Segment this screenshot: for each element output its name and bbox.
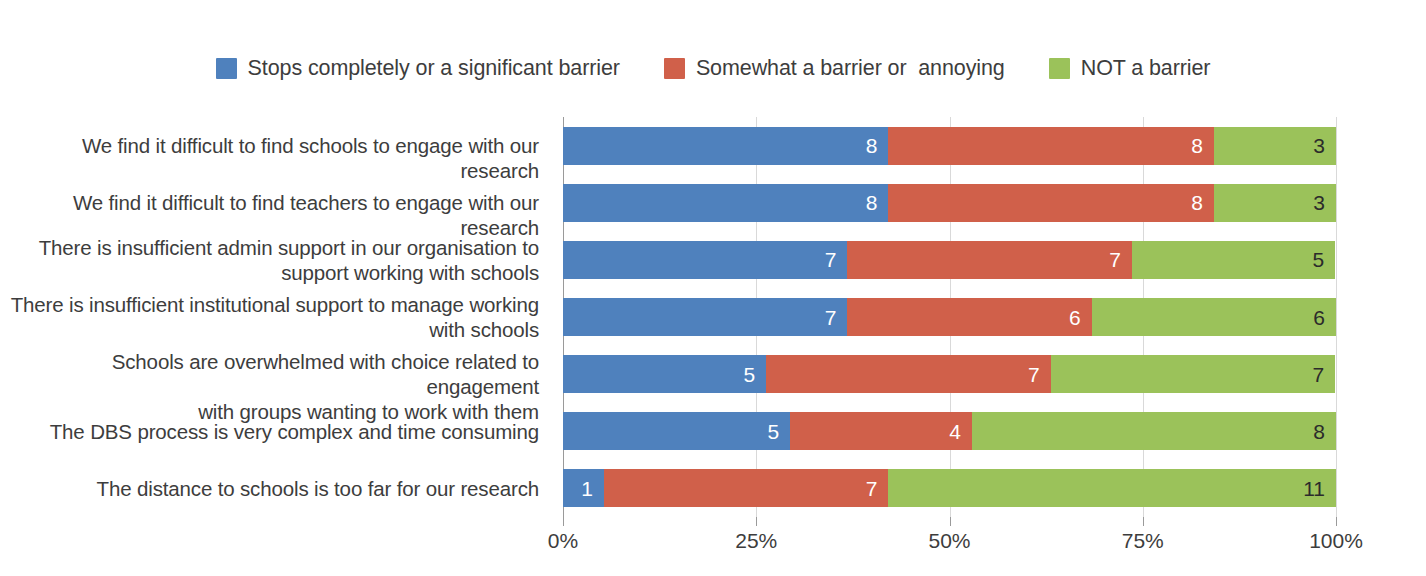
bar-segment-value: 6 [1069,307,1092,328]
plot-area: 0%25%50%75%100%8838837757665775481711 [563,117,1336,517]
bar-row[interactable]: 577 [563,355,1336,393]
legend-swatch-icon [1049,58,1070,79]
axis-tick-mark [756,517,757,526]
stacked-bar-chart: Stops completely or a significant barrie… [0,0,1426,576]
legend-label: Stops completely or a significant barrie… [248,56,620,81]
bar-segment[interactable]: 1 [563,469,604,507]
legend-swatch-icon [216,58,237,79]
category-label: We find it difficult to find teachers to… [9,190,539,240]
category-label-line: There is insufficient institutional supp… [9,292,539,317]
bar-segment[interactable]: 8 [888,127,1213,165]
bar-row[interactable]: 883 [563,127,1336,165]
bar-segment-value: 8 [1191,135,1214,156]
category-label-line: We find it difficult to find schools to … [9,133,539,183]
category-label-line: There is insufficient admin support in o… [9,235,539,260]
bar-segment-value: 5 [1313,249,1336,270]
bar-segment[interactable]: 4 [790,412,972,450]
bar-segment[interactable]: 8 [563,127,888,165]
category-label-line: We find it difficult to find teachers to… [9,190,539,240]
axis-tick-label: 0% [548,529,578,553]
axis-tick-label: 75% [1122,529,1164,553]
bar-segment[interactable]: 7 [847,241,1131,279]
category-label: The distance to schools is too far for o… [9,476,539,501]
category-label-line: with schools [9,317,539,342]
bar-row[interactable]: 548 [563,412,1336,450]
bar-segment[interactable]: 5 [1132,241,1335,279]
category-label-line: The distance to schools is too far for o… [9,476,539,501]
bar-segment-value: 4 [949,421,972,442]
bar-segment[interactable]: 7 [563,298,847,336]
category-label-line: support working with schools [9,260,539,285]
bar-segment-value: 7 [1109,249,1132,270]
bar-segment[interactable]: 7 [563,241,847,279]
bar-row[interactable]: 766 [563,298,1336,336]
bar-segment-value: 8 [1191,192,1214,213]
category-label-line: Schools are overwhelmed with choice rela… [9,349,539,399]
bar-segment-value: 6 [1313,307,1336,328]
bar-segment-value: 11 [1303,478,1336,499]
axis-tick-label: 50% [928,529,970,553]
bar-segment-value: 5 [744,364,767,385]
bar-segment[interactable]: 5 [563,355,766,393]
bar-segment[interactable]: 7 [766,355,1050,393]
bar-segment-value: 7 [825,307,848,328]
legend-item-2[interactable]: NOT a barrier [1049,56,1211,81]
plot-wrapper: We find it difficult to find schools to … [0,117,1426,517]
bar-segment[interactable]: 3 [1214,184,1336,222]
bar-segment-value: 8 [866,192,889,213]
category-label-line: The DBS process is very complex and time… [9,419,539,444]
bar-segment-value: 8 [1313,421,1336,442]
axis-tick-mark [1336,517,1337,526]
bar-segment[interactable]: 8 [563,184,888,222]
bar-row[interactable]: 775 [563,241,1336,279]
legend-label: Somewhat a barrier or annoying [696,56,1005,81]
bar-segment-value: 1 [581,478,604,499]
bar-segment-value: 7 [825,249,848,270]
gridline [1336,117,1337,517]
category-axis-labels: We find it difficult to find schools to … [0,117,551,517]
legend-label: NOT a barrier [1081,56,1211,81]
category-label: There is insufficient admin support in o… [9,235,539,285]
category-label: We find it difficult to find schools to … [9,133,539,183]
category-label: There is insufficient institutional supp… [9,292,539,342]
bar-row[interactable]: 1711 [563,469,1336,507]
bar-segment[interactable]: 5 [563,412,790,450]
axis-tick-label: 100% [1309,529,1363,553]
axis-tick-mark [563,517,564,526]
bar-segment[interactable]: 8 [972,412,1336,450]
legend-swatch-icon [664,58,685,79]
bar-segment-value: 5 [768,421,791,442]
bar-segment[interactable]: 6 [1092,298,1336,336]
bar-segment[interactable]: 6 [847,298,1091,336]
axis-tick-mark [950,517,951,526]
bar-segment-value: 3 [1313,192,1336,213]
category-label: The DBS process is very complex and time… [9,419,539,444]
axis-tick-label: 25% [735,529,777,553]
axis-tick-mark [1143,517,1144,526]
chart-legend: Stops completely or a significant barrie… [0,56,1426,81]
bar-segment-value: 7 [1313,364,1336,385]
bar-segment[interactable]: 7 [604,469,888,507]
legend-item-1[interactable]: Somewhat a barrier or annoying [664,56,1005,81]
bar-segment[interactable]: 8 [888,184,1213,222]
bar-segment-value: 7 [1028,364,1051,385]
category-label: Schools are overwhelmed with choice rela… [9,349,539,424]
bar-segment-value: 7 [866,478,889,499]
legend-item-0[interactable]: Stops completely or a significant barrie… [216,56,620,81]
bar-segment-value: 8 [866,135,889,156]
bar-segment[interactable]: 7 [1051,355,1335,393]
bar-row[interactable]: 883 [563,184,1336,222]
bar-segment[interactable]: 11 [888,469,1336,507]
bar-segment[interactable]: 3 [1214,127,1336,165]
bar-segment-value: 3 [1313,135,1336,156]
